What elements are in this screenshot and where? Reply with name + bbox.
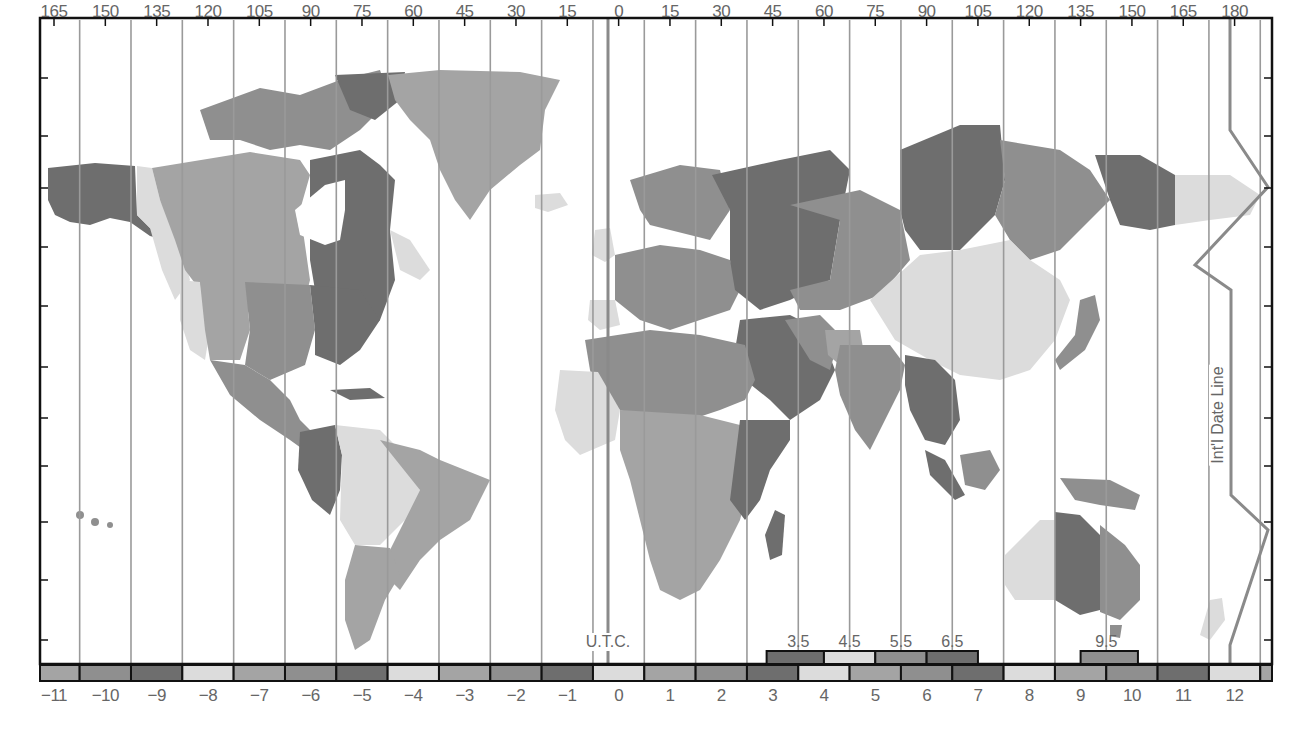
legend-cell: [1055, 665, 1106, 681]
land-hawaii-3: [107, 522, 113, 528]
half-hour-cell: [1081, 651, 1138, 664]
longitude-label: 15: [558, 2, 576, 22]
land-sumatra: [925, 450, 965, 500]
longitude-label: 105: [965, 2, 992, 22]
land-east-africa: [730, 420, 790, 520]
zone-offset-label: 2: [717, 686, 726, 706]
zone-legend-bar: [40, 665, 1272, 681]
longitude-label: 90: [918, 2, 936, 22]
legend-cell: [182, 665, 233, 681]
land-australia-west: [1005, 520, 1055, 600]
land-usa-mountain: [200, 282, 250, 360]
legend-cell: [798, 665, 849, 681]
longitude-label: 45: [764, 2, 782, 22]
land-usa-central: [245, 282, 315, 380]
longitude-label: 45: [456, 2, 474, 22]
land-borneo: [960, 450, 1000, 490]
longitude-label: 0: [614, 2, 623, 22]
zone-offset-label: 1: [665, 686, 674, 706]
longitude-label: 150: [1118, 2, 1145, 22]
half-hour-label: 9.5: [1095, 633, 1117, 651]
half-hour-cell: [824, 651, 875, 664]
zone-offset-label: 11: [1175, 686, 1192, 706]
legend-cell: [696, 665, 747, 681]
longitude-label: 75: [866, 2, 884, 22]
longitude-label: 105: [246, 2, 273, 22]
land-new-guinea: [1060, 478, 1140, 510]
legend-cell: [850, 665, 901, 681]
legend-cell: [542, 665, 593, 681]
legend-cell: [439, 665, 490, 681]
zone-offset-label: −11: [41, 686, 67, 706]
land-australia-central: [1055, 512, 1100, 615]
longitude-label: 30: [507, 2, 525, 22]
longitude-label: 60: [815, 2, 833, 22]
legend-cell: [593, 665, 644, 681]
legend-cell: [80, 665, 131, 681]
zone-offset-label: −4: [404, 686, 422, 706]
half-hour-cell: [927, 651, 978, 664]
legend-cell: [234, 665, 285, 681]
legend-cell: [1004, 665, 1055, 681]
half-hour-legend: [767, 651, 1138, 664]
zone-offset-label: −5: [353, 686, 371, 706]
zone-offset-label: −7: [250, 686, 268, 706]
zone-offset-label: −8: [199, 686, 217, 706]
land-madagascar: [765, 510, 785, 560]
longitude-label: 90: [302, 2, 320, 22]
legend-cell: [285, 665, 336, 681]
international-date-line: [1195, 18, 1268, 681]
legend-cell: [1106, 665, 1157, 681]
legend-cell: [388, 665, 439, 681]
zone-offset-label: 8: [1025, 686, 1034, 706]
zone-offset-label: 0: [614, 686, 623, 706]
dateline-label: Int'l Date Line: [1209, 364, 1227, 465]
half-hour-cell: [767, 651, 824, 664]
zone-offset-label: 6: [922, 686, 931, 706]
land-hawaii-2: [91, 518, 99, 526]
landmasses: [48, 70, 1260, 650]
half-hour-label: 6.5: [941, 633, 963, 651]
longitude-label: 15: [661, 2, 679, 22]
land-siberia-east: [995, 140, 1110, 260]
legend-cell: [490, 665, 541, 681]
longitude-label: 150: [92, 2, 119, 22]
zone-offset-label: 7: [973, 686, 982, 706]
land-sa-south: [345, 545, 400, 650]
time-zone-map: 1651501351201059075604530150153045607590…: [0, 0, 1301, 755]
zone-offset-label: 12: [1226, 686, 1244, 706]
longitude-label: 60: [404, 2, 422, 22]
zone-offset-label: −3: [455, 686, 473, 706]
zone-offset-label: 3: [768, 686, 777, 706]
longitude-label: 135: [143, 2, 170, 22]
legend-cell: [40, 665, 80, 681]
legend-cell: [952, 665, 1003, 681]
land-europe-west: [615, 245, 740, 330]
legend-cell: [747, 665, 798, 681]
longitude-label: 75: [353, 2, 371, 22]
zone-offset-label: −10: [92, 686, 119, 706]
zone-offset-label: −6: [301, 686, 319, 706]
longitude-label: 180: [1221, 2, 1248, 22]
land-iceland: [535, 193, 568, 212]
land-uk: [592, 228, 615, 262]
zone-offset-label: 9: [1076, 686, 1085, 706]
longitude-label: 30: [712, 2, 730, 22]
half-hour-label: 4.5: [838, 633, 860, 651]
land-chukotka: [1175, 175, 1260, 225]
zone-offset-label: −2: [507, 686, 525, 706]
zone-offset-label: 5: [871, 686, 880, 706]
utc-label: U.T.C.: [584, 633, 632, 651]
longitude-label: 165: [1170, 2, 1197, 22]
zone-offset-label: −1: [558, 686, 576, 706]
land-cuba: [330, 388, 385, 400]
half-hour-label: 3.5: [787, 633, 809, 651]
land-maritimes: [390, 230, 430, 280]
land-new-zealand: [1200, 598, 1225, 640]
land-india: [835, 345, 905, 450]
legend-cell: [1158, 665, 1209, 681]
zone-offset-label: 10: [1123, 686, 1141, 706]
zone-offset-label: −9: [147, 686, 165, 706]
legend-cell: [131, 665, 182, 681]
land-greenland: [388, 70, 560, 220]
